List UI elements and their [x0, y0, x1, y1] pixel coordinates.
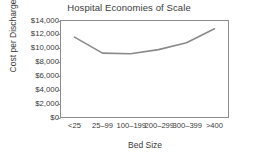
x-axis-tick-label: <25: [61, 121, 89, 130]
data-series-line: [75, 29, 215, 54]
x-axis-title: Bed Size: [60, 140, 230, 150]
x-axis-tick-label: >400: [201, 121, 229, 130]
chart-container: Hospital Economies of Scale Cost per Dis…: [0, 0, 258, 159]
plot-area: [0, 0, 258, 159]
x-axis-tick-label: 100–199: [117, 121, 145, 130]
x-axis-tick-label: 300–399: [173, 121, 201, 130]
x-axis-tick-labels: <2525–99100–199200–299300–399>400: [59, 121, 231, 133]
x-axis-tick-label: 25–99: [89, 121, 117, 130]
x-axis-tick-label: 200–299: [145, 121, 173, 130]
